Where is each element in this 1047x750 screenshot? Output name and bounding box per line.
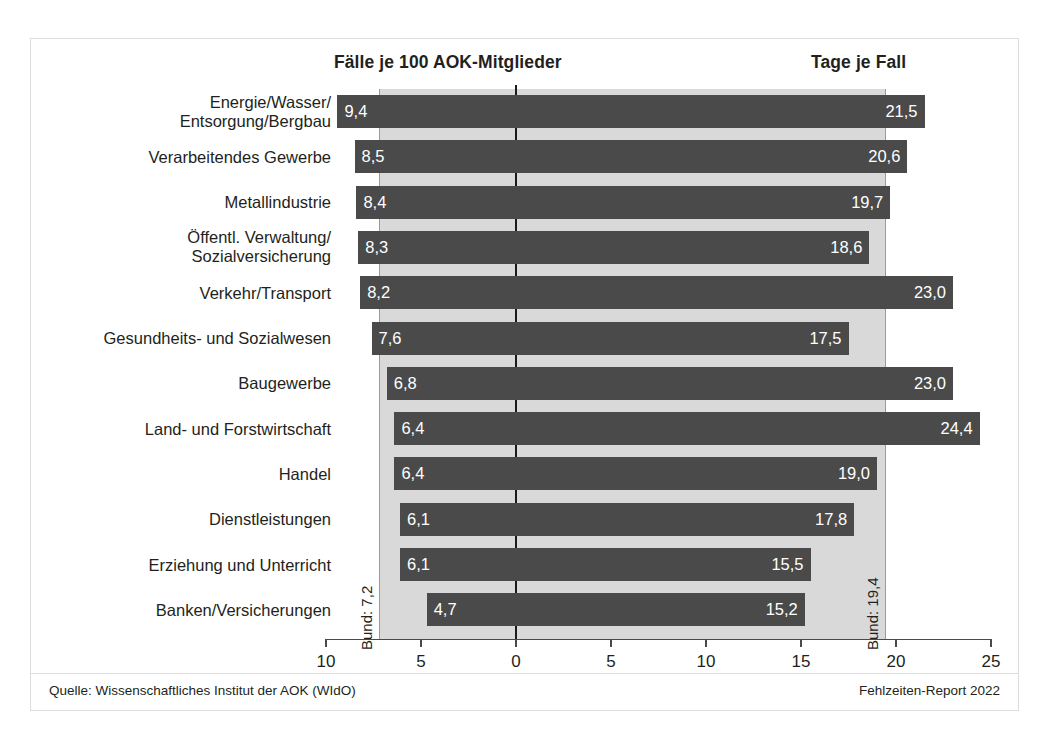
category-label: Verarbeitendes Gewerbe bbox=[1, 147, 331, 166]
bar-value-cases: 6,1 bbox=[407, 548, 430, 581]
category-label: Dienstleistungen bbox=[1, 510, 331, 529]
category-label: Verkehr/Transport bbox=[1, 283, 331, 302]
axis-tick-label: 0 bbox=[486, 652, 546, 672]
bar-cases: 8,3 bbox=[358, 231, 516, 264]
bar-days: 17,5 bbox=[516, 322, 849, 355]
axis-tick bbox=[610, 639, 611, 647]
chart-row: Gesundheits- und Sozialwesen7,617,5 bbox=[31, 322, 1020, 355]
axis-tick bbox=[990, 639, 991, 647]
bar-value-cases: 9,4 bbox=[344, 95, 367, 128]
bar-value-cases: 6,8 bbox=[394, 367, 417, 400]
axis-tick bbox=[325, 639, 326, 647]
plot-area: Bund: 7,2 Bund: 19,4 Energie/Wasser/ Ent… bbox=[31, 39, 1020, 712]
bar-days: 19,7 bbox=[516, 186, 890, 219]
category-label: Erziehung und Unterricht bbox=[1, 555, 331, 574]
category-label: Banken/Versicherungen bbox=[1, 600, 331, 619]
category-label: Öffentl. Verwaltung/ Sozialversicherung bbox=[1, 228, 331, 266]
bar-value-cases: 4,7 bbox=[434, 593, 457, 626]
axis-tick-label: 15 bbox=[771, 652, 831, 672]
category-label: Baugewerbe bbox=[1, 374, 331, 393]
bar-value-cases: 8,3 bbox=[365, 231, 388, 264]
axis-tick-label: 25 bbox=[961, 652, 1021, 672]
category-label: Handel bbox=[1, 464, 331, 483]
chart-row: Land- und Forstwirtschaft6,424,4 bbox=[31, 412, 1020, 445]
bar-days: 15,5 bbox=[516, 548, 811, 581]
bar-days: 15,2 bbox=[516, 593, 805, 626]
bar-value-days: 23,0 bbox=[914, 276, 946, 309]
bar-cases: 6,1 bbox=[400, 548, 516, 581]
bar-value-days: 19,7 bbox=[851, 186, 883, 219]
bar-cases: 6,1 bbox=[400, 503, 516, 536]
bar-days: 23,0 bbox=[516, 276, 953, 309]
bar-value-days: 21,5 bbox=[885, 95, 917, 128]
report-note: Fehlzeiten-Report 2022 bbox=[859, 683, 1000, 698]
bar-cases: 6,4 bbox=[394, 412, 516, 445]
bar-value-cases: 6,4 bbox=[401, 457, 424, 490]
bar-days: 21,5 bbox=[516, 95, 925, 128]
source-note: Quelle: Wissenschaftliches Institut der … bbox=[49, 683, 356, 698]
footer-divider bbox=[31, 673, 1018, 674]
axis-tick bbox=[515, 639, 516, 647]
chart-figure: Fälle je 100 AOK-Mitglieder Tage je Fall… bbox=[30, 38, 1019, 711]
bar-cases: 7,6 bbox=[372, 322, 516, 355]
axis-tick-label: 10 bbox=[296, 652, 356, 672]
chart-row: Banken/Versicherungen4,715,2 bbox=[31, 593, 1020, 626]
category-label: Land- und Forstwirtschaft bbox=[1, 419, 331, 438]
chart-row: Dienstleistungen6,117,8 bbox=[31, 503, 1020, 536]
bar-days: 24,4 bbox=[516, 412, 980, 445]
bar-value-cases: 7,6 bbox=[379, 322, 402, 355]
bar-value-days: 17,8 bbox=[815, 503, 847, 536]
chart-row: Verarbeitendes Gewerbe8,520,6 bbox=[31, 140, 1020, 173]
chart-row: Metallindustrie8,419,7 bbox=[31, 186, 1020, 219]
bar-days: 23,0 bbox=[516, 367, 953, 400]
bar-cases: 8,4 bbox=[356, 186, 516, 219]
chart-row: Öffentl. Verwaltung/ Sozialversicherung8… bbox=[31, 231, 1020, 264]
bar-value-days: 17,5 bbox=[809, 322, 841, 355]
bar-value-cases: 6,1 bbox=[407, 503, 430, 536]
axis-tick-label: 10 bbox=[676, 652, 736, 672]
bar-value-days: 23,0 bbox=[914, 367, 946, 400]
chart-row: Erziehung und Unterricht6,115,5 bbox=[31, 548, 1020, 581]
axis-tick bbox=[705, 639, 706, 647]
bar-cases: 8,5 bbox=[355, 140, 517, 173]
bar-value-days: 15,5 bbox=[771, 548, 803, 581]
bar-cases: 6,4 bbox=[394, 457, 516, 490]
bar-value-days: 24,4 bbox=[940, 412, 972, 445]
axis-tick bbox=[895, 639, 896, 647]
chart-row: Baugewerbe6,823,0 bbox=[31, 367, 1020, 400]
bar-days: 18,6 bbox=[516, 231, 869, 264]
category-label: Gesundheits- und Sozialwesen bbox=[1, 329, 331, 348]
axis-tick bbox=[800, 639, 801, 647]
axis-tick-label: 5 bbox=[391, 652, 451, 672]
bar-days: 17,8 bbox=[516, 503, 854, 536]
category-label: Energie/Wasser/ Entsorgung/Bergbau bbox=[1, 93, 331, 131]
bar-cases: 6,8 bbox=[387, 367, 516, 400]
chart-row: Verkehr/Transport8,223,0 bbox=[31, 276, 1020, 309]
chart-row: Energie/Wasser/ Entsorgung/Bergbau9,421,… bbox=[31, 95, 1020, 128]
axis-tick-label: 5 bbox=[581, 652, 641, 672]
bar-cases: 4,7 bbox=[427, 593, 516, 626]
axis-tick bbox=[420, 639, 421, 647]
category-label: Metallindustrie bbox=[1, 193, 331, 212]
bar-value-cases: 8,5 bbox=[362, 140, 385, 173]
x-axis-line bbox=[326, 639, 991, 640]
bar-days: 20,6 bbox=[516, 140, 907, 173]
chart-row: Handel6,419,0 bbox=[31, 457, 1020, 490]
bar-value-days: 20,6 bbox=[868, 140, 900, 173]
bar-value-days: 19,0 bbox=[838, 457, 870, 490]
bar-value-cases: 6,4 bbox=[401, 412, 424, 445]
axis-tick-label: 20 bbox=[866, 652, 926, 672]
bar-value-days: 15,2 bbox=[766, 593, 798, 626]
bar-value-cases: 8,4 bbox=[363, 186, 386, 219]
bar-days: 19,0 bbox=[516, 457, 877, 490]
bar-cases: 9,4 bbox=[337, 95, 516, 128]
bar-value-cases: 8,2 bbox=[367, 276, 390, 309]
bar-value-days: 18,6 bbox=[830, 231, 862, 264]
bar-cases: 8,2 bbox=[360, 276, 516, 309]
